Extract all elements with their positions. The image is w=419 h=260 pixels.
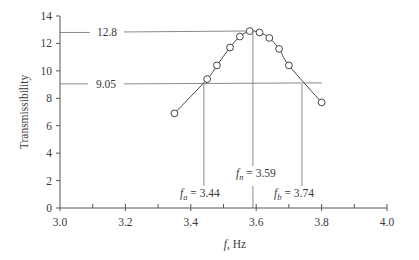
- y-tick-label: 12: [41, 37, 53, 49]
- data-point: [227, 44, 234, 51]
- x-tick-label: 3.2: [118, 216, 133, 228]
- y-tick-label: 4: [46, 147, 52, 159]
- y-tick-label: 10: [41, 65, 53, 77]
- peak-reference-line: [124, 31, 253, 32]
- x-tick-label: 3.0: [53, 216, 68, 228]
- data-point: [276, 46, 283, 53]
- x-tick-label: 4.0: [380, 216, 395, 228]
- fa-value: = 3.44: [187, 187, 220, 199]
- data-point: [246, 28, 253, 35]
- x-axis-title-unit: , Hz: [227, 238, 246, 251]
- data-point: [236, 33, 243, 40]
- peak-value-label: 12.8: [97, 26, 117, 38]
- data-point: [266, 35, 273, 42]
- fn-value: = 3.59: [243, 167, 276, 179]
- data-point: [171, 110, 178, 117]
- y-tick-label: 8: [46, 92, 52, 104]
- y-tick-label: 6: [46, 120, 52, 132]
- half-power-reference-line: [124, 83, 322, 84]
- x-tick-label: 3.4: [184, 216, 199, 228]
- data-point: [214, 62, 221, 69]
- y-axis-title: Transmissibility: [18, 75, 31, 150]
- half-power-value-label: 9.05: [96, 78, 116, 90]
- series-line: [174, 31, 321, 114]
- fb-annotation: fb = 3.74: [274, 187, 314, 202]
- fa-annotation: fa = 3.44: [180, 187, 220, 202]
- x-tick-label: 3.6: [249, 216, 264, 228]
- axes: [60, 16, 387, 208]
- y-tick-label: 14: [41, 10, 53, 22]
- transmissibility-chart: 024681012143.03.23.43.63.84.0 Transmissi…: [0, 0, 419, 260]
- x-tick-label: 3.8: [314, 216, 329, 228]
- y-tick-label: 0: [46, 202, 52, 214]
- data-point: [256, 29, 263, 36]
- y-tick-label: 2: [46, 175, 52, 187]
- data-point: [286, 62, 293, 69]
- data-point: [318, 99, 325, 106]
- fn-annotation: fn = 3.59: [236, 167, 276, 182]
- reference-lines: [60, 31, 322, 208]
- x-axis-title: f, Hz: [224, 238, 246, 251]
- fb-value: = 3.74: [282, 187, 315, 199]
- data-point: [204, 76, 211, 83]
